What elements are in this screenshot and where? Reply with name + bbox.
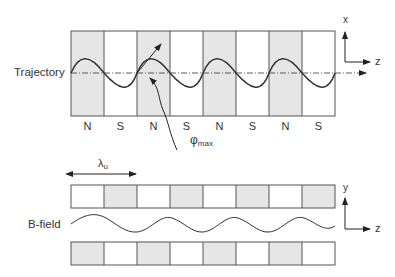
pole-label: S (302, 121, 335, 132)
axis-label-z-bottom: z (375, 223, 381, 234)
phi-symbol: φ (190, 133, 198, 147)
bfield-curve (71, 215, 335, 232)
bfield-top-strip (71, 185, 335, 208)
lambda-u-label: λu (98, 158, 108, 171)
pole-label: N (203, 121, 236, 132)
pole-label: N (71, 121, 104, 132)
pole-label: S (170, 121, 203, 132)
lambda-subscript: u (104, 162, 108, 171)
bfield-bottom-strip (71, 242, 335, 265)
axis-label-z-top: z (375, 56, 381, 67)
pole-label: N (269, 121, 302, 132)
pole-label: S (104, 121, 137, 132)
yz-axes-icon (345, 198, 370, 229)
pole-label: N (137, 121, 170, 132)
phi-subscript: max (198, 139, 213, 148)
phi-max-label: φmax (190, 134, 213, 148)
pole-label: S (236, 121, 269, 132)
axis-label-y: y (343, 183, 348, 193)
bfield-label: B-field (28, 219, 61, 231)
axis-label-x: x (343, 15, 348, 25)
trajectory-label: Trajectory (14, 67, 65, 79)
xz-axes-icon (345, 32, 370, 62)
